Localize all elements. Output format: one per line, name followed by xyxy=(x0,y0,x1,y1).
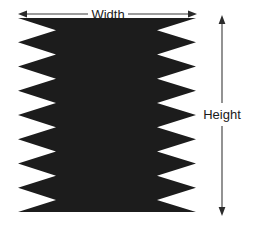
height-label: Height xyxy=(203,107,241,122)
figure-root: Width Height xyxy=(0,0,255,227)
zigzag-shape xyxy=(18,18,196,212)
arrow-left-icon xyxy=(18,11,27,18)
width-label: Width xyxy=(91,7,124,22)
zigzag-dimension-diagram: Width Height xyxy=(0,0,255,227)
height-dimension: Height xyxy=(203,15,241,216)
arrow-up-icon xyxy=(219,15,226,24)
arrow-right-icon xyxy=(188,11,197,18)
arrow-down-icon xyxy=(219,207,226,216)
